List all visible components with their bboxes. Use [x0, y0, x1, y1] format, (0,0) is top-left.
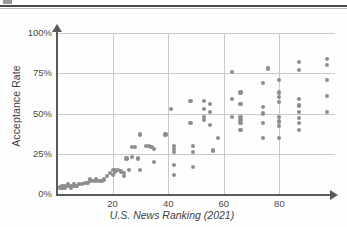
scatter-point — [124, 156, 128, 160]
x-axis-title: U.S. News Ranking (2021) — [57, 209, 287, 221]
scatter-point — [191, 144, 195, 148]
scatter-point — [261, 136, 265, 140]
scatter-point — [208, 123, 212, 127]
scatter-point — [325, 110, 329, 114]
scatter-point — [297, 128, 301, 132]
scatter-point — [230, 115, 234, 119]
scatter-point — [261, 105, 265, 109]
page-fragment-icon — [3, 0, 12, 4]
gridline-horizontal — [57, 73, 335, 74]
scatter-point — [216, 136, 220, 140]
scatter-point — [230, 70, 234, 74]
scatter-point — [261, 111, 265, 115]
scatter-point — [238, 128, 242, 132]
scatter-point — [325, 57, 329, 61]
scatter-point — [127, 168, 131, 172]
scatter-point — [202, 118, 206, 122]
header-rule — [0, 5, 347, 7]
scatter-point — [325, 78, 329, 82]
scatter-point — [172, 150, 176, 154]
y-axis-tick-label: 25% — [16, 148, 52, 159]
scatter-point — [152, 147, 156, 151]
scatter-point — [130, 155, 134, 159]
scatter-point — [266, 66, 270, 70]
scatter-point — [277, 90, 281, 94]
gridline-vertical — [279, 33, 280, 194]
header-rule-secondary — [0, 8, 347, 9]
scatter-point — [191, 165, 195, 169]
y-axis-line — [56, 30, 58, 196]
scatter-point — [297, 68, 301, 72]
scatter-point — [277, 95, 281, 99]
scatter-point — [297, 116, 301, 120]
gridline-horizontal — [57, 154, 335, 155]
y-axis-tick-labels: 0%25%50%75%100% — [12, 0, 52, 227]
y-axis-tick-label: 100% — [16, 27, 52, 38]
scatter-point — [208, 110, 212, 114]
scatter-point — [238, 90, 242, 94]
scatter-point — [297, 121, 301, 125]
scatter-point — [230, 97, 234, 101]
scatter-point — [325, 94, 329, 98]
scatter-point — [163, 132, 167, 136]
scatter-point — [172, 163, 176, 167]
chart-figure: Acceptance Rate 0%25%50%75%100% U.S. New… — [0, 0, 347, 227]
scatter-point — [136, 156, 140, 160]
scatter-point — [138, 132, 142, 136]
y-axis-tick-label: 50% — [16, 108, 52, 119]
scatter-point — [277, 100, 281, 104]
scatter-point — [277, 136, 281, 140]
scatter-point — [325, 63, 329, 67]
x-axis-tick-label: 20 — [93, 198, 133, 209]
scatter-point — [133, 145, 137, 149]
scatter-point — [208, 102, 212, 106]
scatter-point — [122, 174, 126, 178]
scatter-point — [277, 115, 281, 119]
scatter-point — [277, 124, 281, 128]
scatter-point — [202, 107, 206, 111]
gridline-vertical — [224, 33, 225, 194]
x-axis-tick-label: 40 — [148, 198, 188, 209]
scatter-point — [202, 99, 206, 103]
scatter-point — [238, 102, 242, 106]
scatter-point — [169, 107, 173, 111]
scatter-point — [277, 78, 281, 82]
y-axis-arrow-icon — [52, 24, 62, 32]
scatter-point — [277, 119, 281, 123]
scatter-point — [152, 160, 156, 164]
scatter-point — [138, 168, 142, 172]
scatter-point — [261, 121, 265, 125]
scatter-point — [261, 81, 265, 85]
scatter-point — [297, 103, 301, 107]
scatter-point — [297, 60, 301, 64]
gridline-vertical — [168, 33, 169, 194]
scatter-point — [297, 97, 301, 101]
scatter-point — [238, 121, 242, 125]
x-axis-tick-label: 80 — [259, 198, 299, 209]
y-axis-tick-label: 75% — [16, 67, 52, 78]
x-axis-arrow-icon — [330, 190, 338, 200]
scatter-point — [188, 99, 192, 103]
y-axis-tick-label: 0% — [16, 188, 52, 199]
scatter-point — [102, 177, 106, 181]
scatter-point — [188, 121, 192, 125]
plot-area — [57, 33, 335, 194]
x-axis-tick-label: 60 — [204, 198, 244, 209]
x-axis-line — [56, 194, 331, 196]
scatter-point — [297, 110, 301, 114]
gridline-horizontal — [57, 114, 335, 115]
gridline-horizontal — [57, 33, 335, 34]
scatter-point — [211, 148, 215, 152]
scatter-point — [172, 173, 176, 177]
